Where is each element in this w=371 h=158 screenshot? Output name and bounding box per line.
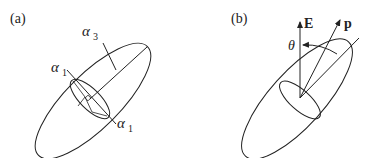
major-axis-line-b [300, 38, 359, 98]
panel-a: (a) α 3 α 1 α 1 [10, 11, 167, 158]
alpha3-subscript: 3 [93, 31, 98, 42]
alpha1-top-label: α [51, 59, 60, 75]
theta-label: θ [288, 38, 295, 53]
panel-a-label: (a) [10, 11, 26, 27]
alpha1-bottom-label: α [117, 115, 126, 131]
alpha1-bottom-subscript: 1 [128, 123, 133, 134]
alpha3-label: α [82, 23, 91, 39]
panel-b-label: (b) [231, 11, 248, 27]
alpha1-top-subscript: 1 [62, 67, 67, 78]
dipole-arrow [300, 20, 340, 98]
major-axis-line [90, 47, 147, 99]
ellipsoid-outline-b [225, 24, 368, 158]
panel-b: (b) E p θ [225, 11, 368, 158]
ellipsoid-diagram: (a) α 3 α 1 α 1 (b) E p [0, 0, 371, 158]
dipole-label: p [344, 16, 352, 31]
ellipsoid-outline [19, 27, 166, 158]
minor-axis-line [67, 70, 116, 124]
e-field-label: E [304, 16, 313, 31]
